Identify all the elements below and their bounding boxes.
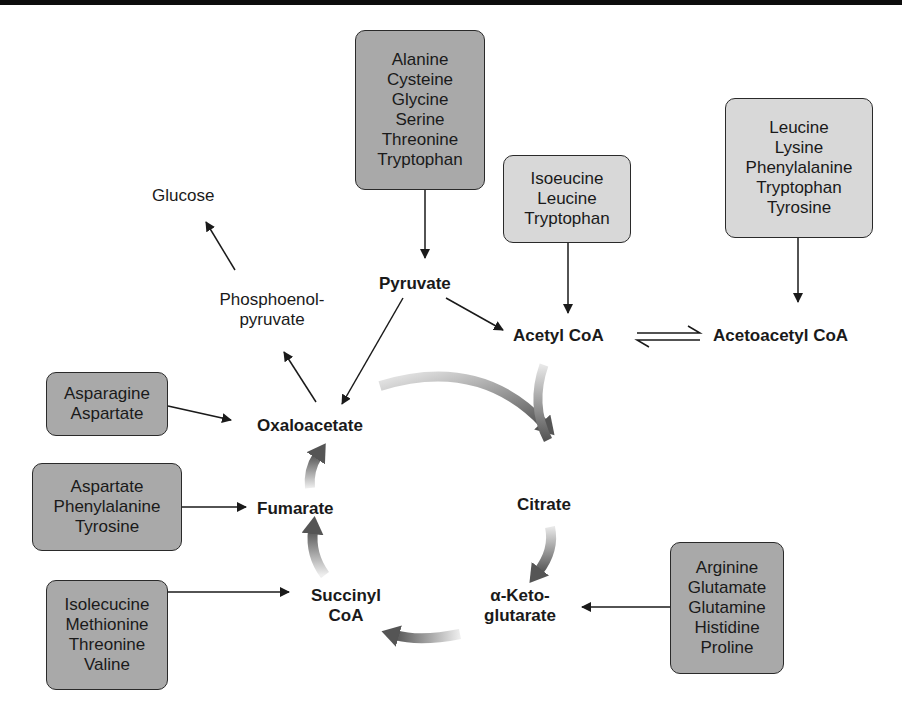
box-to-alpha-ketoglutarate: Arginine Glutamate Glutamine Histidine P… (670, 542, 784, 674)
amino-acid: Methionine (65, 615, 148, 635)
label-citrate: Citrate (517, 495, 571, 515)
label-pep-line1: Phosphoenol- (204, 290, 340, 310)
label-acetyl-coa: Acetyl CoA (513, 326, 604, 346)
amino-acid: Threonine (69, 635, 146, 655)
amino-acid: Aspartate (71, 477, 144, 497)
arrow-pyruvate-to-acetyl-coa (446, 298, 503, 330)
box-to-acetoacetyl-coa: Leucine Lysine Phenylalanine Tryptophan … (725, 98, 873, 238)
amino-acid: Alanine (392, 50, 449, 70)
label-pep-line2: pyruvate (204, 310, 340, 330)
amino-acid: Tryptophan (524, 209, 609, 229)
arrow-oxaloacetate-to-pep (284, 352, 316, 402)
equilibrium-arrow (637, 326, 700, 347)
label-phosphoenolpyruvate: Phosphoenol- pyruvate (204, 290, 340, 330)
amino-acid: Asparagine (64, 384, 150, 404)
label-acetoacetyl-coa: Acetoacetyl CoA (713, 326, 848, 346)
box-to-acetyl-coa: Isoeucine Leucine Tryptophan (503, 155, 631, 243)
label-succinyl-coa: Succinyl CoA (300, 586, 392, 626)
box-to-succinyl-coa: Isolecucine Methionine Threonine Valine (46, 580, 168, 690)
label-akg-line1: α-Keto- (470, 586, 570, 606)
amino-acid: Isolecucine (64, 595, 149, 615)
label-fumarate: Fumarate (257, 499, 334, 519)
amino-acid: Leucine (769, 118, 829, 138)
arrow-to-oxaloacetate (168, 406, 231, 420)
label-succinyl-line1: Succinyl (300, 586, 392, 606)
amino-acid: Glutamate (688, 578, 766, 598)
label-succinyl-line2: CoA (300, 606, 392, 626)
amino-acid: Cysteine (387, 70, 453, 90)
amino-acid: Threonine (382, 130, 459, 150)
amino-acid: Phenylalanine (746, 158, 853, 178)
amino-acid: Glycine (392, 90, 449, 110)
amino-acid: Arginine (696, 558, 758, 578)
amino-acid: Lysine (775, 138, 824, 158)
box-to-oxaloacetate: Asparagine Aspartate (46, 372, 168, 436)
label-akg-line2: glutarate (470, 606, 570, 626)
amino-acid: Tyrosine (75, 517, 139, 537)
label-pyruvate: Pyruvate (379, 274, 451, 294)
amino-acid: Proline (701, 638, 754, 658)
amino-acid: Glutamine (688, 598, 765, 618)
amino-acid: Tryptophan (756, 178, 841, 198)
box-to-fumarate: Aspartate Phenylalanine Tyrosine (32, 463, 182, 551)
amino-acid: Aspartate (71, 404, 144, 424)
arrow-pep-to-glucose (206, 222, 235, 270)
amino-acid: Leucine (537, 189, 597, 209)
box-to-pyruvate: Alanine Cysteine Glycine Serine Threonin… (355, 30, 485, 190)
amino-acid: Histidine (694, 618, 759, 638)
amino-acid: Phenylalanine (54, 497, 161, 517)
arrow-pyruvate-to-oxaloacetate (342, 298, 403, 404)
amino-acid: Valine (84, 655, 130, 675)
label-oxaloacetate: Oxaloacetate (257, 416, 363, 436)
amino-acid: Tryptophan (377, 150, 462, 170)
label-alpha-ketoglutarate: α-Keto- glutarate (470, 586, 570, 626)
amino-acid: Isoeucine (531, 169, 604, 189)
amino-acid: Tyrosine (767, 198, 831, 218)
label-glucose: Glucose (152, 186, 214, 206)
amino-acid: Serine (395, 110, 444, 130)
